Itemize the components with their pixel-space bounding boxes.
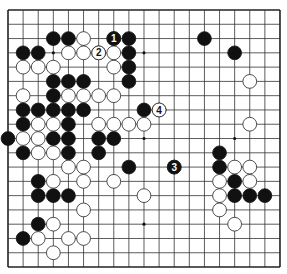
black-stone [62,146,76,160]
black-stone [1,132,15,146]
white-stone [228,217,242,231]
black-stone [62,189,76,203]
white-stone [137,117,151,131]
white-stone [46,217,60,231]
black-stone [122,32,136,46]
black-stone [31,103,45,117]
black-stone [16,117,30,131]
white-stone [46,174,60,188]
black-stone [62,132,76,146]
move-number-label: 2 [96,47,102,58]
black-stone [46,32,60,46]
stones-layer [1,32,272,260]
black-stone [77,103,91,117]
white-stone [77,203,91,217]
black-stone [92,146,106,160]
white-stone [31,117,45,131]
move-number-label: 3 [171,162,177,173]
black-stone [62,117,76,131]
black-stone [107,132,121,146]
white-stone [243,174,257,188]
black-stone [31,46,45,60]
white-stone [243,75,257,89]
white-stone [92,89,106,103]
white-stone [46,117,60,131]
white-stone [31,146,45,160]
black-stone [77,75,91,89]
black-stone [213,160,227,174]
black-stone [31,189,45,203]
white-stone [77,174,91,188]
white-stone [107,117,121,131]
white-stone [107,46,121,60]
go-board: 1234 [0,0,287,274]
white-stone [213,174,227,188]
white-stone [46,60,60,74]
black-stone [122,46,136,60]
white-stone [92,117,106,131]
black-stone [16,232,30,246]
black-stone [122,160,136,174]
white-stone [77,160,91,174]
black-stone [228,46,242,60]
white-stone [62,160,76,174]
black-stone [16,146,30,160]
star-point [142,223,145,226]
white-stone [107,89,121,103]
white-stone [62,46,76,60]
white-stone [31,232,45,246]
white-stone [122,117,136,131]
black-stone [16,103,30,117]
black-stone [228,174,242,188]
star-point [233,137,236,140]
white-stone [228,160,242,174]
white-stone [62,232,76,246]
black-stone [46,89,60,103]
black-stone [243,189,257,203]
black-stone [46,189,60,203]
white-stone [243,160,257,174]
white-stone [31,132,45,146]
white-stone [16,132,30,146]
black-stone [122,60,136,74]
white-stone [77,232,91,246]
black-stone [62,32,76,46]
white-stone [16,89,30,103]
white-stone [77,89,91,103]
black-stone [198,32,212,46]
black-stone [31,174,45,188]
black-stone [46,75,60,89]
black-stone [213,146,227,160]
black-stone [62,75,76,89]
black-stone [62,103,76,117]
black-stone [16,46,30,60]
white-stone [107,60,121,74]
black-stone [122,75,136,89]
white-stone [77,46,91,60]
white-stone [213,189,227,203]
black-stone [258,189,272,203]
star-point [52,51,55,54]
white-stone [77,32,91,46]
black-stone [137,103,151,117]
star-point [142,137,145,140]
white-stone [46,146,60,160]
black-stone [46,103,60,117]
black-stone [228,189,242,203]
white-stone [16,60,30,74]
white-stone [213,203,227,217]
white-stone [107,174,121,188]
move-number-label: 1 [111,33,117,44]
white-stone [243,117,257,131]
white-stone [62,89,76,103]
white-stone [46,246,60,260]
black-stone [92,132,106,146]
white-stone [137,189,151,203]
white-stone [31,60,45,74]
black-stone [46,132,60,146]
move-number-label: 4 [156,105,162,116]
star-point [142,51,145,54]
black-stone [31,217,45,231]
